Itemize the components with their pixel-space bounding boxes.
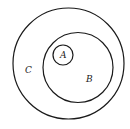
set-a-label: A (59, 50, 67, 60)
nested-sets-diagram: C B A (0, 0, 130, 129)
set-b-circle (43, 33, 113, 103)
set-c-label: C (25, 65, 32, 75)
set-b-label: B (85, 74, 93, 84)
